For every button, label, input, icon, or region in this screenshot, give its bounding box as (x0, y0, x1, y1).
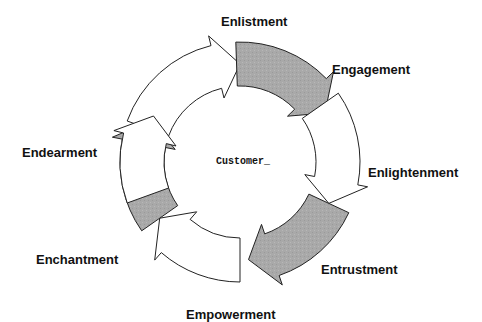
arrow-empowerment (155, 212, 240, 282)
stage-label-entrustment: Entrustment (321, 262, 398, 277)
arrow-engagement (236, 42, 334, 116)
center-label-customer: Customer_ (216, 156, 270, 167)
stage-label-enlightenment: Enlightenment (368, 165, 458, 180)
stage-label-empowerment: Empowerment (186, 307, 276, 322)
stage-label-engagement: Engagement (332, 62, 410, 77)
stage-label-enlistment: Enlistment (221, 14, 287, 29)
stage-label-endearment: Endearment (22, 145, 97, 160)
stage-label-enchantment: Enchantment (36, 252, 118, 267)
